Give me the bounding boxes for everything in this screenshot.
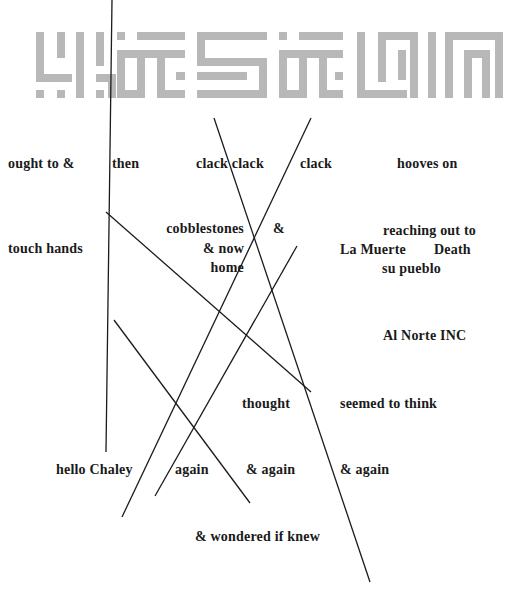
- phrase-reaching-out: reaching out to: [383, 222, 476, 239]
- phrase-cobblestones: cobblestones: [148, 220, 244, 237]
- phrase-death: Death: [434, 241, 471, 258]
- phrase-thought: thought: [242, 395, 290, 412]
- phrase-again: again: [175, 461, 209, 478]
- diagonal-line-a: [122, 118, 311, 517]
- phrase-touch-hands: touch hands: [8, 240, 83, 257]
- phrase-and-again-1: & again: [246, 461, 295, 478]
- phrase-ought-to: ought to &: [8, 155, 75, 172]
- diagonal-line-c: [106, 212, 311, 392]
- diagonal-line-long: [214, 118, 370, 582]
- phrase-al-norte: Al Norte INC: [383, 327, 466, 344]
- phrase-wondered: & wondered if knew: [195, 528, 320, 545]
- kufic-banner-icon: [0, 0, 515, 110]
- phrase-and-now: & now: [148, 240, 244, 257]
- phrase-and-again-2: & again: [340, 461, 389, 478]
- phrase-su-pueblo: su pueblo: [382, 260, 441, 277]
- phrase-home: home: [148, 259, 244, 276]
- diagonal-line-b: [155, 246, 297, 496]
- phrase-hello-chaley: hello Chaley: [56, 461, 133, 478]
- phrase-then: then: [112, 155, 139, 172]
- phrase-hooves-on: hooves on: [397, 155, 458, 172]
- phrase-ampersand: &: [273, 220, 285, 237]
- phrase-la-muerte: La Muerte: [340, 241, 406, 258]
- phrase-clack-clack: clack clack: [196, 155, 264, 172]
- phrase-seemed-to-think: seemed to think: [340, 395, 437, 412]
- phrase-clack: clack: [300, 155, 332, 172]
- banner-glyphs: [36, 32, 503, 98]
